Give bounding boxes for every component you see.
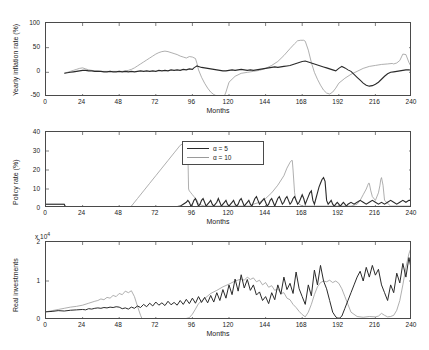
figure-three-panel-timeseries: Yearly inflation rate (%) 100 50 0 -50 bbox=[0, 0, 429, 350]
panel2-xtick-72: 72 bbox=[145, 209, 165, 216]
legend-swatch-alpha5 bbox=[187, 148, 209, 149]
panel3-ylabel: Real investments bbox=[12, 258, 19, 312]
panel1-ytick--50: -50 bbox=[18, 91, 40, 98]
legend-policy-rate: α = 5 α = 10 bbox=[182, 141, 264, 165]
panel1-svg bbox=[46, 23, 411, 96]
panel1-series-alpha10 bbox=[64, 40, 411, 96]
legend-label-alpha5: α = 5 bbox=[213, 144, 228, 153]
panel3-xtick-216: 216 bbox=[364, 321, 384, 328]
panel2-xtick-240: 240 bbox=[401, 209, 421, 216]
panel1-xtick-144: 144 bbox=[255, 98, 275, 105]
panel2-xtick-192: 192 bbox=[328, 209, 348, 216]
panel2-xtick-0: 0 bbox=[35, 209, 55, 216]
panel2-xtick-96: 96 bbox=[181, 209, 201, 216]
panel1-xtick-96: 96 bbox=[181, 98, 201, 105]
panel1-xtick-72: 72 bbox=[145, 98, 165, 105]
panel1-xtick-120: 120 bbox=[218, 98, 238, 105]
panel2-xtick-168: 168 bbox=[291, 209, 311, 216]
panel1-xtick-48: 48 bbox=[108, 98, 128, 105]
panel3-xtick-192: 192 bbox=[328, 321, 348, 328]
panel3-xtick-48: 48 bbox=[108, 321, 128, 328]
panel1-ytick-100: 100 bbox=[18, 19, 40, 26]
panel2-xtick-24: 24 bbox=[72, 209, 92, 216]
panel3-xtick-144: 144 bbox=[255, 321, 275, 328]
panel3-ytick-2: 2 bbox=[18, 238, 40, 245]
panel2-xlabel: Months bbox=[198, 218, 238, 225]
panel2-ytick-10: 10 bbox=[18, 185, 40, 192]
panel1-series-alpha5 bbox=[64, 61, 411, 86]
panel1-xtick-240: 240 bbox=[401, 98, 421, 105]
panel3-svg bbox=[46, 242, 411, 319]
panel3-xtick-0: 0 bbox=[35, 321, 55, 328]
legend-entry-alpha5: α = 5 bbox=[187, 144, 259, 153]
panel1-ytick-0: 0 bbox=[18, 67, 40, 74]
panel3-xtick-168: 168 bbox=[291, 321, 311, 328]
panel1-xlabel: Months bbox=[198, 107, 238, 114]
panel1-xtick-168: 168 bbox=[291, 98, 311, 105]
panel3-ytick-1: 1 bbox=[18, 277, 40, 284]
panel1-xtick-216: 216 bbox=[364, 98, 384, 105]
panel1-plot-area bbox=[45, 22, 411, 96]
panel1-xtick-24: 24 bbox=[72, 98, 92, 105]
panel1-xtick-192: 192 bbox=[328, 98, 348, 105]
panel2-xtick-120: 120 bbox=[218, 209, 238, 216]
panel2-xtick-216: 216 bbox=[364, 209, 384, 216]
panel3-plot-area bbox=[45, 241, 411, 319]
legend-entry-alpha10: α = 10 bbox=[187, 153, 259, 162]
panel3-xlabel: Months bbox=[198, 330, 238, 337]
panel1-ylabel: Yearly inflation rate (%) bbox=[12, 24, 19, 96]
panel3-xtick-120: 120 bbox=[218, 321, 238, 328]
legend-label-alpha10: α = 10 bbox=[213, 153, 231, 162]
panel1-xtick-0: 0 bbox=[35, 98, 55, 105]
panel2-ytick-40: 40 bbox=[18, 128, 40, 135]
panel3-xtick-240: 240 bbox=[401, 321, 421, 328]
panel1-ytick-50: 50 bbox=[18, 43, 40, 50]
panel2-xtick-144: 144 bbox=[255, 209, 275, 216]
panel2-ytick-20: 20 bbox=[18, 166, 40, 173]
panel3-xtick-72: 72 bbox=[145, 321, 165, 328]
panel3-multiplier-exponent: 4 bbox=[47, 231, 50, 237]
panel3-xtick-24: 24 bbox=[72, 321, 92, 328]
panel2-series-alpha5 bbox=[46, 178, 411, 207]
panel3-xtick-96: 96 bbox=[181, 321, 201, 328]
panel3-series-alpha5 bbox=[46, 258, 411, 319]
panel2-ytick-30: 30 bbox=[18, 147, 40, 154]
panel2-xtick-48: 48 bbox=[108, 209, 128, 216]
legend-swatch-alpha10 bbox=[187, 157, 209, 158]
